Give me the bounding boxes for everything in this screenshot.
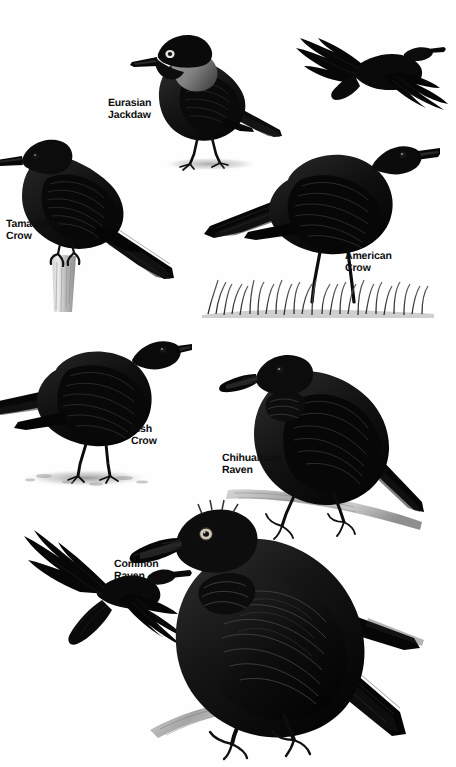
bird-illustration-american-crow — [196, 118, 440, 318]
species-label-fish-crow: Fish Crow — [131, 424, 157, 447]
eye — [160, 347, 167, 353]
species-label-common-raven: Common Raven — [114, 559, 159, 582]
field-guide-plate: Eurasian Jackdaw — [0, 0, 456, 767]
bird-illustration-crow-in-flight — [292, 20, 456, 132]
bird-illustration-fish-crow — [0, 312, 192, 494]
bird-illustration-tamaulipas-crow — [0, 122, 176, 312]
bird-illustration-common-raven — [128, 498, 438, 760]
species-label-tamaulipas-crow: Tamaulipas Crow — [6, 219, 62, 242]
eye — [33, 153, 40, 159]
species-label-chihuahuan-raven: Chihuahuan Raven — [222, 453, 281, 476]
eye — [399, 152, 406, 158]
species-label-american-crow: American Crow — [345, 251, 392, 274]
eye — [276, 367, 284, 374]
species-label-eurasian-jackdaw: Eurasian Jackdaw — [108, 98, 151, 121]
